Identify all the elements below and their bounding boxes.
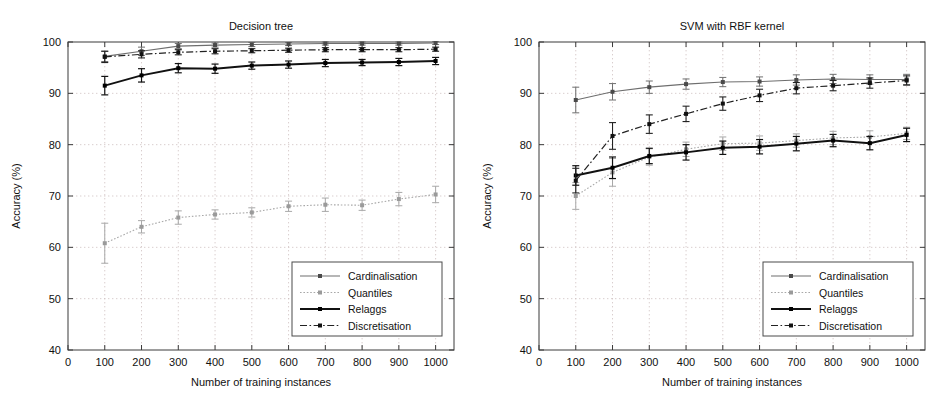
legend-swatch-marker — [789, 274, 793, 278]
series-line — [576, 79, 907, 100]
series-relaggs — [101, 57, 439, 94]
legend-label: Discretisation — [348, 320, 411, 332]
y-tick-label: 50 — [49, 293, 61, 305]
series-line — [576, 135, 907, 176]
y-axis-label: Accuracy (%) — [10, 163, 22, 228]
x-tick-label: 100 — [567, 356, 585, 368]
legend-swatch-marker — [789, 291, 793, 295]
legend-label: Relaggs — [819, 303, 858, 315]
legend: CardinalisationQuantilesRelaggsDiscretis… — [292, 262, 442, 336]
legend-label: Relaggs — [348, 303, 387, 315]
legend-swatch-marker — [789, 307, 793, 311]
y-tick-label: 100 — [43, 36, 61, 48]
y-tick-label: 40 — [49, 344, 61, 356]
series-line — [105, 61, 436, 86]
error-bars — [101, 186, 439, 263]
data-markers — [574, 79, 909, 183]
series-line — [105, 49, 436, 57]
y-tick-label: 90 — [49, 87, 61, 99]
series-relaggs — [572, 128, 910, 185]
y-tick-label: 70 — [49, 190, 61, 202]
legend-label: Cardinalisation — [819, 270, 889, 282]
chart-title: Decision tree — [229, 20, 293, 32]
x-axis-label: Number of training instances — [662, 376, 803, 388]
x-tick-label: 1000 — [894, 356, 918, 368]
x-tick-label: 0 — [536, 356, 542, 368]
x-tick-label: 500 — [243, 356, 261, 368]
x-tick-label: 900 — [861, 356, 879, 368]
y-tick-label: 100 — [514, 36, 532, 48]
legend: CardinalisationQuantilesRelaggsDiscretis… — [763, 262, 913, 336]
y-tick-label: 60 — [520, 241, 532, 253]
y-axis-label: Accuracy (%) — [481, 163, 493, 228]
y-tick-label: 40 — [520, 344, 532, 356]
legend-label: Discretisation — [819, 320, 882, 332]
x-tick-label: 1000 — [423, 356, 447, 368]
chart-title: SVM with RBF kernel — [680, 20, 785, 32]
x-tick-label: 700 — [316, 356, 334, 368]
x-tick-label: 100 — [96, 356, 114, 368]
x-tick-label: 900 — [390, 356, 408, 368]
x-tick-label: 500 — [714, 356, 732, 368]
x-tick-label: 300 — [640, 356, 658, 368]
x-tick-label: 600 — [279, 356, 297, 368]
chart-panel-svm: SVM with RBF kernel010020030040050060070… — [471, 0, 941, 410]
legend-label: Quantiles — [348, 287, 392, 299]
y-tick-label: 70 — [520, 190, 532, 202]
series-line — [105, 43, 436, 56]
data-markers — [574, 77, 909, 102]
series-quantiles — [101, 186, 439, 263]
y-tick-label: 90 — [520, 87, 532, 99]
x-tick-label: 600 — [750, 356, 768, 368]
x-tick-label: 800 — [353, 356, 371, 368]
y-tick-label: 80 — [520, 139, 532, 151]
x-tick-label: 400 — [206, 356, 224, 368]
error-bars — [572, 128, 910, 185]
chart-svg: SVM with RBF kernel010020030040050060070… — [471, 0, 941, 410]
legend-swatch-marker — [789, 324, 793, 328]
series-line — [105, 194, 436, 243]
y-tick-label: 50 — [520, 293, 532, 305]
series-cardinalisation — [101, 41, 439, 61]
y-tick-label: 60 — [49, 241, 61, 253]
chart-panel-decision-tree: Decision tree010020030040050060070080090… — [0, 0, 470, 410]
x-tick-label: 800 — [824, 356, 842, 368]
series-line — [576, 81, 907, 181]
x-tick-label: 300 — [169, 356, 187, 368]
x-axis-label: Number of training instances — [191, 376, 332, 388]
x-tick-label: 400 — [677, 356, 695, 368]
legend-swatch-marker — [318, 324, 322, 328]
x-tick-label: 700 — [787, 356, 805, 368]
data-markers — [103, 192, 438, 245]
figure-container: Decision tree010020030040050060070080090… — [0, 0, 941, 410]
chart-svg: Decision tree010020030040050060070080090… — [0, 0, 470, 410]
x-tick-label: 200 — [603, 356, 621, 368]
data-markers — [574, 133, 909, 178]
series-quantiles — [572, 127, 910, 209]
legend-label: Quantiles — [819, 287, 863, 299]
x-tick-label: 0 — [65, 356, 71, 368]
x-tick-label: 200 — [132, 356, 150, 368]
legend-label: Cardinalisation — [348, 270, 418, 282]
data-markers — [103, 47, 438, 59]
legend-swatch-marker — [318, 274, 322, 278]
legend-swatch-marker — [318, 291, 322, 295]
legend-swatch-marker — [318, 307, 322, 311]
y-tick-label: 80 — [49, 139, 61, 151]
